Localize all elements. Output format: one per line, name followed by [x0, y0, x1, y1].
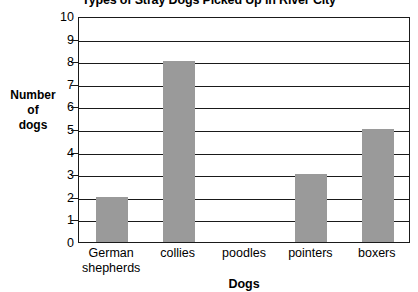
x-axis-tick-label: pointers: [277, 246, 343, 261]
gridline: [79, 108, 409, 109]
bar: [362, 129, 394, 242]
y-axis-tick-label: 10: [54, 11, 74, 23]
x-axis-tick-label: collies: [144, 246, 210, 261]
gridline: [79, 199, 409, 200]
x-axis-tick-label-line: boxers: [344, 246, 410, 261]
gridline: [79, 221, 409, 222]
gridline: [79, 131, 409, 132]
plot-area: [78, 17, 410, 243]
gridline: [79, 63, 409, 64]
x-axis-tick-label-line: German: [78, 246, 144, 261]
bar-chart: Types of Stray Dogs Picked Up in River C…: [0, 0, 418, 292]
x-axis-tick-label: Germanshepherds: [78, 246, 144, 276]
y-axis-tick-mark: [71, 175, 78, 176]
x-axis-tick-label-line: pointers: [277, 246, 343, 261]
gridline: [79, 41, 409, 42]
y-axis-tick-mark: [71, 107, 78, 108]
y-axis-tick-mark: [71, 62, 78, 63]
y-axis-tick-mark: [71, 198, 78, 199]
y-axis-tick-mark: [71, 85, 78, 86]
x-axis-tick-labels: Germanshepherdscolliespoodlespointersbox…: [78, 246, 410, 280]
bar: [96, 197, 128, 242]
y-axis-tick-label: 0: [54, 237, 74, 249]
bar: [295, 174, 327, 242]
x-axis-tick-label: boxers: [344, 246, 410, 261]
y-axis-tick-mark: [71, 220, 78, 221]
bar: [163, 61, 195, 242]
y-axis-tick-mark: [71, 40, 78, 41]
x-axis-tick-label-line: shepherds: [78, 261, 144, 276]
y-axis-tick-mark: [71, 153, 78, 154]
x-axis-tick-label-line: collies: [144, 246, 210, 261]
chart-title: Types of Stray Dogs Picked Up in River C…: [0, 0, 418, 7]
x-axis-tick-label: poodles: [211, 246, 277, 261]
y-axis-tick-mark: [71, 130, 78, 131]
gridline: [79, 86, 409, 87]
x-axis-tick-label-line: poodles: [211, 246, 277, 261]
gridline: [79, 154, 409, 155]
gridline: [79, 176, 409, 177]
x-axis-title: Dogs: [78, 277, 410, 291]
